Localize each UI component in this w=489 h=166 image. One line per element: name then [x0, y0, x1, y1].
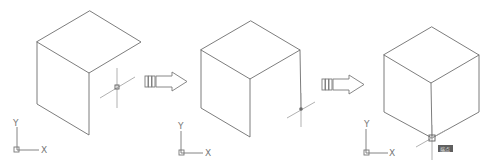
- arrow-right-icon: [322, 75, 364, 94]
- ucs-icon-3: Y X: [363, 119, 395, 158]
- ucs-icon-2: Y X: [177, 121, 211, 158]
- snap-point-icon: [299, 107, 303, 111]
- ucs-y-label: Y: [363, 119, 370, 129]
- cube-3-top-face: [384, 27, 479, 83]
- step-1: Y X: [12, 11, 141, 155]
- snap-tooltip-label: 端点: [440, 146, 450, 153]
- cube-1: [37, 11, 141, 135]
- step-2: Y X: [177, 21, 315, 158]
- crosshair-cursor-1: [100, 68, 135, 108]
- ucs-y-label: Y: [12, 118, 19, 128]
- snap-tooltip: 端点: [438, 145, 453, 153]
- cube-2-top-face: [201, 21, 300, 79]
- ucs-x-label: X: [389, 148, 395, 158]
- cube-2: [201, 21, 301, 137]
- step-3: 端点 Y X: [363, 27, 479, 160]
- ucs-y-label: Y: [177, 121, 184, 131]
- cube-2-left-face: [201, 50, 250, 137]
- ucs-icon-1: Y X: [12, 118, 47, 155]
- ucs-x-label: X: [205, 148, 211, 158]
- diagram-svg: Y X: [0, 0, 489, 166]
- diagram-canvas: Y X: [0, 0, 489, 166]
- arrow-right-icon: [145, 72, 187, 91]
- crosshair-cursor-3: [416, 125, 446, 160]
- cube-1-left-face: [37, 42, 89, 135]
- cube-3: [384, 27, 479, 138]
- crosshair-cursor-2: [287, 93, 315, 127]
- cube-1-top-face: [37, 11, 141, 73]
- ucs-x-label: X: [41, 145, 47, 155]
